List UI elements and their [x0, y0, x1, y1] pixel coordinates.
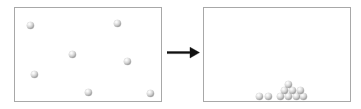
- particle: [147, 90, 154, 97]
- particle: [300, 93, 307, 100]
- arrow-right-icon: [167, 44, 200, 61]
- particle: [27, 22, 34, 29]
- transition-arrow: [167, 44, 200, 61]
- particle: [256, 93, 263, 100]
- particle: [277, 93, 284, 100]
- particle: [285, 93, 292, 100]
- after-panel: [203, 7, 351, 102]
- particle: [124, 58, 131, 65]
- particle: [114, 20, 121, 27]
- particle: [69, 51, 76, 58]
- particle: [31, 71, 38, 78]
- figure-canvas: [0, 0, 361, 109]
- particle: [289, 87, 296, 94]
- particle: [85, 89, 92, 96]
- particle: [265, 93, 272, 100]
- before-panel: [14, 7, 162, 102]
- particle: [297, 87, 304, 94]
- particle: [293, 93, 300, 100]
- particle: [281, 87, 288, 94]
- particle: [285, 81, 292, 88]
